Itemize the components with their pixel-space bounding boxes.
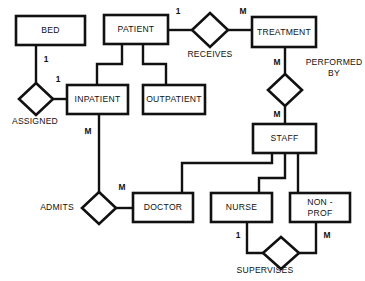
relationship-label-performed_by-line2: BY bbox=[328, 68, 340, 78]
cardinality-nonprof-supervises: M bbox=[324, 230, 331, 240]
entity-label-inpatient: INPATIENT bbox=[75, 94, 121, 104]
relationship-diamond-performed_by bbox=[268, 74, 302, 106]
entity-label-patient: PATIENT bbox=[118, 24, 155, 34]
cardinality-nurse-supervises: 1 bbox=[236, 230, 241, 240]
entity-staff[interactable]: STAFF bbox=[253, 124, 316, 153]
connector-nurse-to-supervises bbox=[247, 222, 263, 253]
entity-treatment[interactable]: TREATMENT bbox=[252, 17, 316, 47]
relationship-diamond-receives bbox=[192, 13, 228, 47]
relationship-label-assigned: ASSIGNED bbox=[12, 116, 58, 126]
entity-patient[interactable]: PATIENT bbox=[104, 15, 168, 44]
cardinality-performedby-staff: M bbox=[274, 109, 281, 119]
relationship-diamond-admits bbox=[82, 192, 116, 224]
cardinality-assigned-inpatient: 1 bbox=[56, 74, 61, 84]
connector-patient-to-inpatient bbox=[97, 44, 122, 85]
relationship-diamond-assigned bbox=[19, 83, 53, 115]
relationship-assigned[interactable]: ASSIGNED bbox=[12, 83, 58, 126]
entity-label-treatment: TREATMENT bbox=[257, 27, 312, 37]
connector-patient-to-outpatient bbox=[143, 44, 166, 85]
relationship-label-performed_by: PERFORMED bbox=[306, 57, 363, 67]
entity-label-doctor: DOCTOR bbox=[144, 202, 183, 212]
cardinality-receives-treatment: M bbox=[240, 6, 247, 16]
relationship-label-supervises: SUPERVISES bbox=[237, 265, 294, 275]
er-diagram-svg: BEDPATIENTTREATMENTINPATIENTOUTPATIENTST… bbox=[0, 0, 365, 281]
relationship-admits[interactable]: ADMITS bbox=[40, 192, 116, 224]
entity-nurse[interactable]: NURSE bbox=[211, 193, 272, 222]
cardinality-inpatient-admits: M bbox=[85, 126, 92, 136]
relationship-label-receives: RECEIVES bbox=[187, 49, 232, 59]
relationship-diamond-supervises bbox=[263, 237, 299, 269]
cardinality-treatment-performedby: M bbox=[274, 57, 281, 67]
entity-nonprof[interactable]: NON -PROF bbox=[290, 193, 350, 222]
cardinality-bed-assigned: 1 bbox=[44, 54, 49, 64]
entity-bed[interactable]: BED bbox=[16, 16, 85, 45]
entity-label-outpatient: OUTPATIENT bbox=[146, 94, 202, 104]
entity-label-bed: BED bbox=[41, 25, 59, 35]
entity-outpatient[interactable]: OUTPATIENT bbox=[143, 85, 205, 114]
relationship-receives[interactable]: RECEIVES bbox=[187, 13, 232, 59]
relationship-performed_by[interactable]: PERFORMEDBY bbox=[268, 57, 362, 106]
connector-nonprof-to-supervises bbox=[299, 222, 316, 253]
er-diagram-canvas: BEDPATIENTTREATMENTINPATIENTOUTPATIENTST… bbox=[0, 0, 365, 281]
relationship-label-admits: ADMITS bbox=[40, 202, 74, 212]
entity-label-nurse: NURSE bbox=[226, 202, 257, 212]
entity-label-staff: STAFF bbox=[271, 133, 299, 143]
entity-doctor[interactable]: DOCTOR bbox=[133, 193, 193, 222]
cardinality-patient-receives: 1 bbox=[176, 6, 181, 16]
entity-label-nonprof-line2: PROF bbox=[308, 208, 333, 218]
entity-label-nonprof: NON - bbox=[307, 197, 333, 207]
cardinality-admits-doctor: M bbox=[119, 182, 126, 192]
entity-inpatient[interactable]: INPATIENT bbox=[67, 85, 128, 114]
